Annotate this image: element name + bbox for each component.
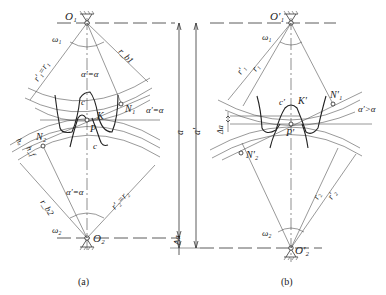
caption-b: (b): [281, 276, 293, 288]
label-c-top: c: [81, 97, 85, 107]
caption-a: (a): [78, 276, 89, 288]
label-N1: N₁: [124, 103, 135, 114]
label-P-prime: P′: [285, 127, 295, 138]
panel-b: O′₁ O′₂ ω₁ ω₂ r′₁ r₁ r₂ r′₂ α′>α c′ K′ P…: [200, 10, 376, 288]
label-O2: O₂: [93, 232, 105, 244]
label-r2-prime: r′₂: [325, 188, 338, 201]
label-omega1: ω₁: [52, 34, 61, 44]
label-r2-eq: r′₂=r₂: [109, 189, 131, 212]
center-distance-dimensions: a a′ Δa: [170, 23, 202, 255]
label-O2-prime: O′₂: [295, 244, 309, 256]
label-delta-a: Δa: [172, 235, 182, 246]
label-ha: hₐ: [14, 137, 25, 148]
label-alpha-gt: α′>α: [358, 104, 376, 114]
label-alpha-top: α′=α: [81, 69, 99, 79]
label-a: a: [174, 130, 185, 135]
label-O1: O₁: [65, 10, 77, 22]
gear-meshing-diagram: O₁ O₂ ω₁ ω₂ r′₁=r₁ r′₂=r₂ r_b1 r_b2 α′=α…: [0, 0, 386, 295]
label-alpha-bottom: α′=α: [66, 187, 84, 197]
label-N1-prime: N′₁: [329, 89, 342, 100]
label-alpha-right: α′=α: [146, 105, 164, 115]
label-K-prime: K′: [297, 95, 308, 106]
label-r2: r₂: [311, 190, 323, 200]
label-hf: h_f: [24, 145, 38, 160]
label-N2-prime: N′₂: [245, 149, 259, 160]
label-P: P: [89, 123, 96, 134]
label-c-bottom: c: [93, 141, 97, 151]
label-K: K: [96, 110, 105, 121]
panel-a: O₁ O₂ ω₁ ω₂ r′₁=r₁ r′₂=r₂ r_b1 r_b2 α′=α…: [10, 10, 180, 288]
label-c-prime: c′: [279, 97, 286, 107]
label-O1-prime: O′₁: [270, 10, 284, 22]
label-a-prime: a′: [191, 127, 202, 135]
label-rb1: r_b1: [117, 46, 136, 65]
label-omega2-b: ω₂: [262, 228, 271, 238]
label-r1-prime: r′₁: [234, 63, 247, 76]
label-omega2: ω₂: [52, 225, 61, 235]
label-r1-eq: r′₁=r₁: [31, 60, 51, 83]
label-omega1-b: ω₁: [262, 32, 271, 42]
label-delta-a-b: Δa: [216, 125, 225, 135]
label-N2: N₂: [35, 131, 47, 142]
